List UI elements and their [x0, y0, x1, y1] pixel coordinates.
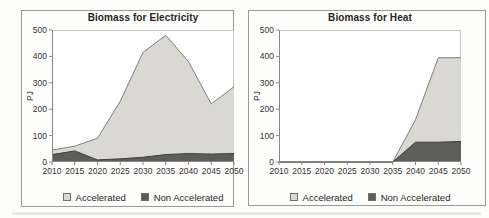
y-tick-label-500: 500 — [249, 25, 274, 35]
chart-panel-biomass-electricity: Biomass for Electricity PJ 0100200300400… — [21, 10, 234, 207]
x-tick-label-2050: 2050 — [219, 166, 249, 176]
legend-label-accelerated: Accelerated — [76, 192, 126, 203]
legend-label-accelerated: Accelerated — [303, 192, 353, 203]
y-axis-ticks: 0100200300400500 — [249, 30, 274, 162]
legend-swatch-accelerated — [290, 193, 298, 201]
legend-swatch-non-accelerated — [141, 193, 149, 201]
y-tick-label-100: 100 — [249, 131, 274, 141]
area-chart-svg — [52, 30, 234, 162]
legend-item-non-accelerated: Non Accelerated — [141, 192, 224, 203]
page-background: Biomass for Electricity PJ 0100200300400… — [0, 0, 489, 218]
y-tick-label-400: 400 — [22, 51, 47, 61]
chart-title: Biomass for Electricity — [52, 12, 234, 26]
scan-artifact-line — [12, 212, 481, 215]
plot-area — [52, 30, 234, 162]
legend-item-accelerated: Accelerated — [63, 192, 126, 203]
area-chart-svg — [279, 30, 461, 162]
y-tick-label-200: 200 — [22, 104, 47, 114]
chart-title: Biomass for Heat — [279, 12, 461, 26]
legend-swatch-accelerated — [63, 193, 71, 201]
x-axis-ticks: 201020152020202520302035204020452050 — [52, 166, 234, 177]
y-axis-ticks: 0100200300400500 — [22, 30, 47, 162]
y-tick-label-500: 500 — [22, 25, 47, 35]
y-tick-label-100: 100 — [22, 131, 47, 141]
legend-item-non-accelerated: Non Accelerated — [368, 192, 451, 203]
legend: AcceleratedNon Accelerated — [52, 190, 234, 204]
legend-swatch-non-accelerated — [368, 193, 376, 201]
chart-panel-biomass-heat: Biomass for Heat PJ 0100200300400500 201… — [248, 10, 486, 206]
y-tick-label-300: 300 — [249, 78, 274, 88]
plot-area — [279, 30, 461, 162]
y-tick-label-300: 300 — [22, 78, 47, 88]
x-tick-label-2050: 2050 — [446, 166, 476, 176]
legend: AcceleratedNon Accelerated — [279, 190, 461, 204]
legend-label-non-accelerated: Non Accelerated — [381, 192, 451, 203]
x-axis-ticks: 201020152020202520302035204020452050 — [279, 166, 461, 177]
y-tick-label-200: 200 — [249, 104, 274, 114]
legend-label-non-accelerated: Non Accelerated — [154, 192, 224, 203]
legend-item-accelerated: Accelerated — [290, 192, 353, 203]
y-tick-label-400: 400 — [249, 51, 274, 61]
